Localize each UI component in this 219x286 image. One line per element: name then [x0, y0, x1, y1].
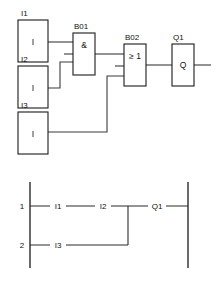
ladder-diagram: 1 2 I1 I2 I3 Q1	[20, 182, 188, 268]
wire-i3-to-b02	[48, 76, 124, 132]
output-block-q1-tag: Q1	[173, 33, 184, 42]
logic-block-b01-tag: B01	[74, 22, 89, 31]
output-block-q1-glyph: Q	[180, 60, 187, 70]
ladder-coil-q1[interactable]: Q1	[152, 202, 163, 211]
input-block-i1-tag: I1	[21, 9, 28, 18]
schematic-svg: I1 I I2 I I3 I B01 & B02 ≥ 1	[0, 0, 219, 286]
input-block-i1-glyph: I	[32, 37, 34, 47]
ladder-contact-i3[interactable]: I3	[55, 241, 62, 250]
ladder-contact-i1[interactable]: I1	[55, 202, 62, 211]
ladder-row-number-2: 2	[20, 241, 25, 250]
output-block-q1[interactable]: Q1 Q	[172, 33, 194, 86]
ladder-row-number-1: 1	[20, 202, 25, 211]
input-block-i2-tag: I2	[21, 55, 28, 64]
logic-block-b01-glyph: &	[81, 40, 87, 50]
logic-block-b01[interactable]: B01 &	[73, 22, 95, 75]
logic-block-b02[interactable]: B02 ≥ 1	[124, 33, 146, 86]
logic-block-b02-glyph: ≥ 1	[129, 51, 141, 61]
logic-block-b02-tag: B02	[125, 33, 140, 42]
input-block-i3-tag: I3	[21, 101, 28, 110]
input-block-i3-glyph: I	[32, 129, 34, 139]
ladder-contact-i2[interactable]: I2	[100, 202, 107, 211]
diagram-canvas: I1 I I2 I I3 I B01 & B02 ≥ 1	[0, 0, 219, 286]
input-block-i3[interactable]: I3 I	[18, 101, 48, 154]
input-block-i2-glyph: I	[32, 83, 34, 93]
wire-i2-to-b01	[48, 62, 73, 88]
